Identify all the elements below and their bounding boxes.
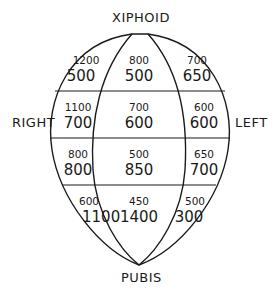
region-lower-value: 650	[172, 69, 222, 84]
region-lower-value: 1100	[70, 210, 120, 225]
region-r1-left: 700 650	[172, 55, 222, 84]
region-lower-value: 600	[114, 116, 164, 131]
region-upper-value: 500	[164, 196, 214, 207]
label-left-side: LEFT	[235, 115, 268, 130]
label-xiphoid: XIPHOID	[112, 10, 170, 25]
region-upper-value: 600	[179, 102, 229, 113]
region-r2-right: 1100 700	[53, 102, 103, 131]
region-r4-right: 600 1100	[70, 196, 120, 225]
region-upper-value: 800	[53, 149, 103, 160]
region-r4-left: 500 300	[164, 196, 214, 225]
region-lower-value: 500	[114, 69, 164, 84]
region-upper-value: 450	[114, 196, 164, 207]
region-r4-center: 450 1400	[114, 196, 164, 225]
region-r2-center: 700 600	[114, 102, 164, 131]
region-upper-value: 1200	[56, 55, 106, 66]
region-r1-right: 1200 500	[56, 55, 106, 84]
region-upper-value: 700	[172, 55, 222, 66]
region-upper-value: 500	[114, 149, 164, 160]
region-upper-value: 800	[114, 55, 164, 66]
region-lower-value: 850	[114, 163, 164, 178]
abdomen-diagram	[0, 0, 274, 290]
region-upper-value: 700	[114, 102, 164, 113]
region-r3-right: 800 800	[53, 149, 103, 178]
region-r3-left: 650 700	[179, 149, 229, 178]
region-r1-center: 800 500	[114, 55, 164, 84]
region-upper-value: 650	[179, 149, 229, 160]
region-upper-value: 1100	[53, 102, 103, 113]
label-right-side: RIGHT	[12, 115, 55, 130]
region-r3-center: 500 850	[114, 149, 164, 178]
region-lower-value: 300	[164, 210, 214, 225]
region-lower-value: 800	[53, 163, 103, 178]
region-r2-left: 600 600	[179, 102, 229, 131]
region-lower-value: 600	[179, 116, 229, 131]
region-lower-value: 700	[179, 163, 229, 178]
region-lower-value: 500	[56, 69, 106, 84]
region-upper-value: 600	[70, 196, 120, 207]
label-pubis: PUBIS	[121, 270, 162, 285]
region-lower-value: 700	[53, 116, 103, 131]
region-lower-value: 1400	[114, 210, 164, 225]
